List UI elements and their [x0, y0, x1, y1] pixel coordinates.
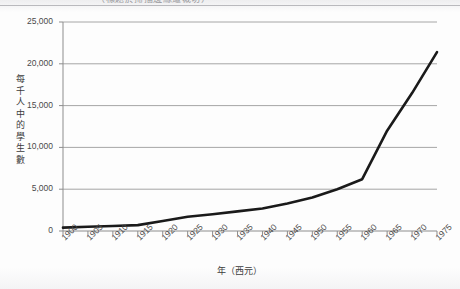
y-tick-label: 15,000 — [5, 101, 53, 110]
y-axis-title: 每千人中的學生數 — [14, 74, 27, 166]
plot-area — [0, 0, 460, 289]
y-tick-label: 20,000 — [5, 59, 53, 68]
y-tick-label: 25,000 — [5, 17, 53, 26]
y-tick-label: 10,000 — [5, 142, 53, 151]
y-tick-label: 5,000 — [5, 184, 53, 193]
y-tick-label: 0 — [5, 226, 53, 235]
chart-figure: （標題於掃描邊緣遭裁切） 每千人中的學生數 05,00010,00015,000… — [0, 0, 460, 289]
gridlines-group — [59, 22, 437, 231]
x-axis-title: 年（西元） — [0, 266, 460, 277]
data-series-line — [63, 52, 437, 228]
